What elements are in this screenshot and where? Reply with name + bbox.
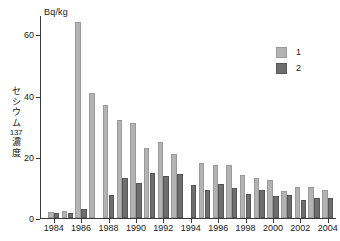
- y-axis-title-char-4: ム: [12, 118, 21, 129]
- x-tick-label: 1986: [71, 223, 91, 233]
- bar-1987-series-1: [89, 93, 94, 218]
- y-tick-label: 0: [29, 214, 34, 224]
- y-axis-title-char-2: シ: [12, 97, 21, 108]
- y-tick-label: 20: [24, 153, 34, 163]
- y-axis-title-char-1: セ: [12, 86, 21, 97]
- bar-1996-series-2: [218, 184, 223, 218]
- bar-1999-series-1: [254, 178, 259, 218]
- bar-1989-series-2: [122, 178, 127, 218]
- x-tick-label: 2002: [290, 223, 310, 233]
- bar-2003-series-1: [308, 187, 313, 218]
- bar-1990-series-1: [130, 123, 135, 218]
- bar-1992-series-2: [163, 176, 168, 218]
- bar-1985-series-1: [62, 211, 67, 218]
- bar-2001-series-1: [281, 191, 286, 218]
- bar-1986-series-1: [75, 22, 80, 218]
- y-axis-title-tail: 濃度: [8, 137, 24, 158]
- bar-1984-series-2: [54, 213, 59, 218]
- y-tick-label: 60: [24, 30, 34, 40]
- bar-2002-series-1: [295, 187, 300, 218]
- x-tick-label: 1994: [181, 223, 201, 233]
- bar-1995-series-2: [205, 190, 210, 218]
- y-tick-mark: [36, 219, 40, 220]
- bar-1992-series-1: [158, 142, 163, 218]
- y-axis-title: セ シ ウ ム 137 濃度: [8, 86, 24, 158]
- cesium-137-bar-chart: Bq/kg セ シ ウ ム 137 濃度 0204060 19841986198…: [0, 0, 340, 241]
- bar-2004-series-2: [328, 198, 333, 218]
- bar-1984-series-1: [48, 212, 53, 218]
- bar-1993-series-1: [171, 154, 176, 218]
- bar-1997-series-2: [232, 188, 237, 218]
- bar-1994-series-2: [191, 185, 196, 218]
- bar-2002-series-2: [301, 200, 306, 218]
- y-tick-label: 40: [24, 92, 34, 102]
- bar-1988-series-1: [103, 105, 108, 218]
- x-tick-label: 1984: [44, 223, 64, 233]
- bar-1995-series-1: [199, 163, 204, 218]
- bar-1996-series-1: [213, 165, 218, 218]
- bar-1998-series-2: [246, 194, 251, 218]
- legend-label-1: 1: [296, 47, 301, 58]
- x-tick-label: 1990: [126, 223, 146, 233]
- x-tick-label: 1988: [99, 223, 119, 233]
- bar-1986-series-2: [81, 209, 86, 218]
- legend-item-1: 1: [276, 46, 301, 59]
- bar-2003-series-2: [314, 198, 319, 218]
- bar-1993-series-2: [177, 174, 182, 218]
- bar-1989-series-1: [117, 120, 122, 218]
- legend-item-2: 2: [276, 62, 301, 75]
- x-tick-label: 2004: [318, 223, 338, 233]
- chart-legend: 1 2: [276, 46, 301, 78]
- x-tick-label: 2000: [263, 223, 283, 233]
- bar-1985-series-2: [68, 213, 73, 218]
- x-tick-label: 1992: [153, 223, 173, 233]
- legend-swatch-icon-1: [276, 47, 287, 58]
- legend-swatch-icon-2: [276, 63, 287, 74]
- bar-1997-series-1: [226, 165, 231, 218]
- bar-1998-series-1: [240, 175, 245, 218]
- bar-1990-series-2: [136, 183, 141, 218]
- legend-label-2: 2: [296, 63, 301, 74]
- bar-1991-series-1: [144, 148, 149, 218]
- bar-2000-series-1: [267, 180, 272, 218]
- x-axis-line: [40, 218, 336, 219]
- x-tick-label: 1996: [208, 223, 228, 233]
- bar-2001-series-2: [287, 195, 292, 218]
- y-axis-title-isotope: 137: [10, 128, 22, 137]
- bar-2000-series-2: [273, 196, 278, 218]
- x-tick-label: 1998: [236, 223, 256, 233]
- bar-1999-series-2: [259, 190, 264, 218]
- bar-2004-series-1: [322, 190, 327, 218]
- bar-1991-series-2: [150, 173, 155, 218]
- y-axis-title-char-3: ウ: [12, 107, 21, 118]
- bar-1988-series-2: [109, 195, 114, 218]
